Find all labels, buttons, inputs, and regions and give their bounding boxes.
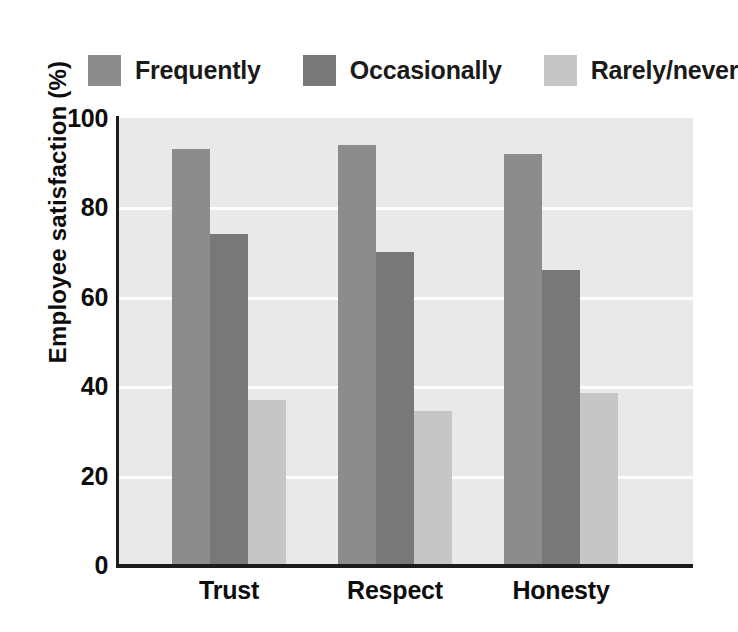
y-tick-label-20: 20 — [46, 461, 108, 490]
plot-area — [118, 118, 693, 565]
bar-trust-frequently — [172, 149, 210, 565]
bar-group-honesty — [504, 118, 618, 565]
bar-group-respect — [338, 118, 452, 565]
legend-item-rarely-never: Rarely/never — [544, 55, 738, 86]
legend-item-occasionally: Occasionally — [303, 55, 502, 86]
y-tick-label-100: 100 — [46, 104, 108, 133]
legend-label-occasionally: Occasionally — [350, 56, 502, 85]
bar-honesty-rarely-never — [580, 393, 618, 565]
bar-trust-occasionally — [210, 234, 248, 565]
x-tick-label-trust: Trust — [199, 576, 259, 605]
x-axis-line — [116, 564, 693, 568]
y-tick-label-60: 60 — [46, 282, 108, 311]
legend-label-frequently: Frequently — [135, 56, 261, 85]
legend-item-frequently: Frequently — [88, 55, 261, 86]
bar-honesty-frequently — [504, 154, 542, 565]
bar-honesty-occasionally — [542, 270, 580, 565]
bar-group-trust — [172, 118, 286, 565]
y-tick-label-80: 80 — [46, 193, 108, 222]
legend-label-rarely-never: Rarely/never — [591, 56, 738, 85]
y-axis-tick-labels: 020406080100 — [46, 0, 108, 632]
y-tick-label-40: 40 — [46, 372, 108, 401]
legend-swatch-rarely-never — [544, 55, 577, 86]
bar-respect-rarely-never — [414, 411, 452, 565]
legend-swatch-occasionally — [303, 55, 336, 86]
bar-respect-frequently — [338, 145, 376, 565]
x-axis-tick-labels: TrustRespectHonesty — [118, 576, 693, 616]
chart-legend: Frequently Occasionally Rarely/never — [88, 50, 678, 90]
x-tick-label-honesty: Honesty — [512, 576, 609, 605]
x-tick-label-respect: Respect — [347, 576, 443, 605]
bar-trust-rarely-never — [248, 400, 286, 565]
bar-respect-occasionally — [376, 252, 414, 565]
y-tick-label-0: 0 — [46, 551, 108, 580]
y-axis-line — [116, 116, 119, 567]
